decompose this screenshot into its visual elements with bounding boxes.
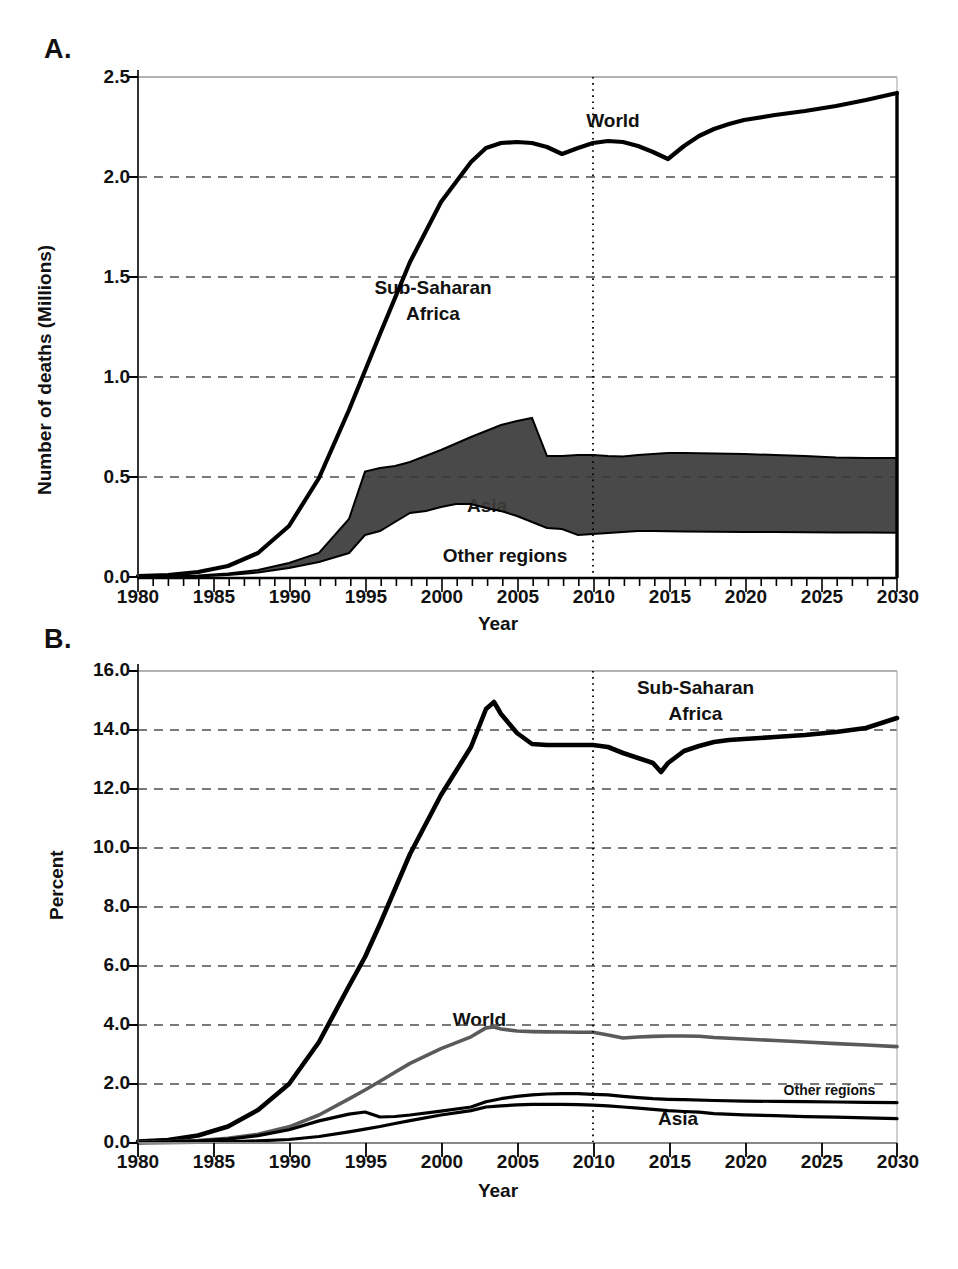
panel-b-plot bbox=[0, 0, 958, 1269]
figure-root: A. Number of deaths (Millions) 0.0 0.5 1… bbox=[0, 0, 958, 1269]
panel-b-world-line bbox=[138, 1027, 897, 1142]
panel-b-other-regions-line bbox=[138, 1094, 897, 1143]
panel-b-y-ticks bbox=[129, 671, 138, 1143]
panel-b-x-ticks bbox=[138, 1143, 897, 1157]
panel-b: B. Percent 0.0 2.0 4.0 6.0 8.0 10.0 12.0… bbox=[0, 0, 958, 1269]
panel-b-sub-saharan-africa-line bbox=[138, 702, 897, 1142]
